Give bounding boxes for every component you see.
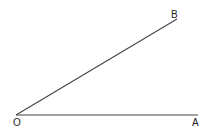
label-b: B	[171, 9, 178, 20]
label-o: O	[13, 117, 21, 128]
label-a: A	[192, 117, 199, 128]
ray-ob	[16, 19, 177, 115]
angle-diagram: O A B	[0, 0, 208, 133]
